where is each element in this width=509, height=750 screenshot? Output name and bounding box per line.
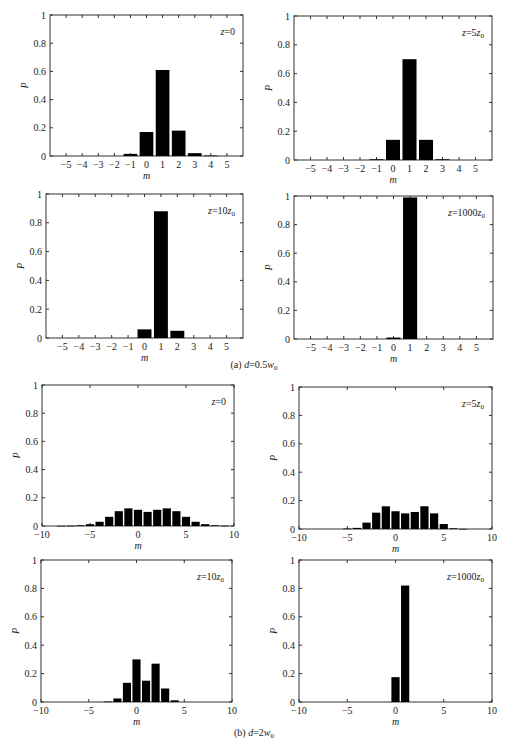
x-tick-label: 0 [142,341,147,352]
y-axis-title: P [263,264,274,271]
x-tick-label: 3 [441,342,446,353]
x-tick-label: −5 [305,342,316,353]
x-tick-label: 0 [136,529,141,540]
y-tick-label: 0.4 [278,276,291,287]
y-tick-label: 0 [285,155,290,166]
y-tick-label: 0.6 [30,246,43,257]
x-tick-label: −5 [83,705,94,716]
y-tick-label: 0.6 [278,248,291,259]
panel-annotation: z=0 [219,26,235,37]
bar [391,511,399,529]
x-tick-label: −2 [355,342,366,353]
x-tick-label: −10 [33,705,49,716]
x-tick-label: −10 [291,532,307,543]
x-tick-label: −1 [125,159,136,170]
x-axis-title: m [134,540,141,551]
y-tick-label: 1 [37,189,42,200]
panel-annotation: z=5z0 [461,27,484,40]
bar [419,140,433,160]
x-tick-label: 5 [441,705,446,716]
bar [140,132,154,156]
bar [459,529,467,530]
y-tick-label: 1 [290,382,295,393]
bar [449,528,457,529]
y-tick-label: 0.8 [25,583,38,594]
y-tick-label: 0 [41,151,46,162]
x-tick-label: −1 [123,341,134,352]
bar [440,524,448,529]
caption-b: (b) d=2w0 [234,727,274,740]
panel-annotation: z=0 [210,396,226,407]
bar [430,513,438,529]
y-tick-label: 0.2 [30,304,43,315]
x-tick-label: −4 [77,159,88,170]
bar [134,510,142,526]
bar [152,664,160,702]
x-tick-label: 10 [487,532,497,543]
bar [138,329,152,338]
y-tick-label: 1 [285,11,290,22]
x-tick-label: 5 [224,341,229,352]
x-tick-label: −4 [322,342,333,353]
x-tick-label: 3 [440,163,445,174]
x-tick-label: 0 [134,705,139,716]
x-tick-label: −5 [57,341,68,352]
bar [113,698,121,702]
x-tick-label: −5 [342,532,353,543]
x-tick-label: −10 [291,705,307,716]
y-tick-label: 0.4 [26,464,39,475]
y-tick-label: 0.2 [25,668,38,679]
y-tick-label: 0.4 [34,94,47,105]
x-tick-label: 0 [393,532,398,543]
bar [204,156,218,157]
x-tick-label: −2 [355,163,366,174]
x-tick-label: −4 [74,341,85,352]
x-tick-label: −3 [93,159,104,170]
bar [144,512,152,526]
panel-annotation: z=10z0 [196,571,224,584]
y-tick-label: 0.4 [25,640,38,651]
y-tick-label: 1 [41,10,46,21]
x-tick-label: −3 [338,163,349,174]
y-tick-label: 0.6 [278,68,291,79]
x-tick-label: 2 [176,159,181,170]
bar [401,586,409,702]
figure: 00.20.40.60.81−5−4−3−2−1012345mPz=000.20… [0,0,509,750]
bar [182,517,190,526]
x-tick-label: 2 [424,342,429,353]
y-axis-title: P [263,85,274,92]
y-tick-label: 0.6 [26,436,39,447]
x-axis-title: m [392,543,399,554]
bar [124,508,132,526]
y-axis-title: P [19,82,30,89]
x-axis-title: m [390,353,397,364]
chart-panel-8: 00.20.40.60.81−10−50510mPz=1000z0 [268,555,497,728]
x-tick-label: −5 [305,163,316,174]
bar [343,529,351,530]
x-tick-label: 0 [393,705,398,716]
y-tick-label: 0.8 [278,219,291,230]
y-tick-label: 0.8 [26,408,39,419]
y-tick-label: 1 [33,380,38,391]
chart-panel-4: 00.20.40.60.81−5−4−3−2−1012345mPz=1000z0 [263,191,493,365]
bar [382,506,390,529]
bar [154,211,168,338]
x-tick-label: −10 [34,529,50,540]
bar [201,524,209,526]
bar [172,131,186,156]
panel-annotation: z=10z0 [207,205,235,218]
x-tick-label: 5 [474,342,479,353]
bar [142,681,150,702]
bar [67,526,75,527]
x-tick-label: 5 [184,529,189,540]
y-axis-title: P [10,628,21,635]
bar [57,526,65,527]
chart-panel-3: 00.20.40.60.81−5−4−3−2−1012345mPz=10z0 [15,189,243,364]
x-tick-label: 1 [407,163,412,174]
y-tick-label: 0.4 [30,275,43,286]
x-tick-label: −4 [322,163,333,174]
x-axis-title: m [133,716,140,727]
bar [132,659,140,702]
y-tick-label: 0.2 [283,495,296,506]
bar [211,525,219,526]
